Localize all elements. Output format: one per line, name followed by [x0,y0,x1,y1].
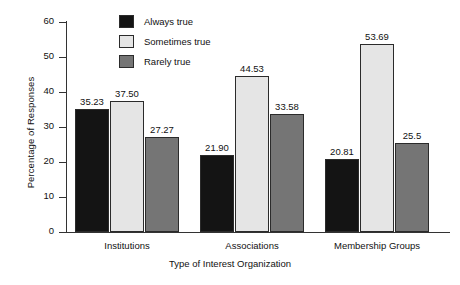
bar-value-label: 53.69 [354,31,400,42]
legend-swatch-icon [119,55,134,68]
y-axis-tick-mark [59,22,66,23]
x-axis-line [66,232,450,233]
legend-label: Always true [144,16,193,27]
y-axis-tick-mark [59,57,66,58]
y-axis-tick-label: 20 [43,155,54,166]
y-axis-tick-mark [59,127,66,128]
y-axis-tick-label: 30 [43,120,54,131]
bar-value-label: 37.50 [104,88,150,99]
y-axis-tick-label: 60 [43,15,54,26]
bar-value-label: 27.27 [139,124,185,135]
legend-label: Sometimes true [144,36,211,47]
bar [145,137,179,232]
bar-value-label: 25.5 [389,130,435,141]
legend-item: Rarely true [119,52,211,70]
bar-value-label: 33.58 [264,101,310,112]
bar [75,109,109,232]
bar-chart-figure: Percentage of Responses 0102030405060 35… [0,0,460,285]
legend-swatch-icon [119,15,134,28]
bar-value-label: 21.90 [194,142,240,153]
legend-label: Rarely true [144,56,190,67]
y-axis-tick-mark [59,232,66,233]
y-axis-tick-label: 50 [43,50,54,61]
y-axis-title: Percentage of Responses [25,33,36,233]
bar [395,143,429,232]
chart-legend: Always trueSometimes trueRarely true [119,12,211,72]
y-axis-tick-label: 40 [43,85,54,96]
bar [110,101,144,232]
bar [200,155,234,232]
bar [325,159,359,232]
bar [270,114,304,232]
bar [235,76,269,232]
legend-item: Always true [119,12,211,30]
y-axis-tick-label: 0 [49,225,54,236]
y-axis-tick-label: 10 [43,190,54,201]
y-axis-tick-mark [59,162,66,163]
legend-swatch-icon [119,35,134,48]
bar-value-label: 44.53 [229,63,275,74]
y-axis-line [66,21,67,233]
x-axis-title: Type of Interest Organization [0,258,460,269]
legend-item: Sometimes true [119,32,211,50]
x-axis-category-label: Membership Groups [295,240,459,251]
bar-value-label: 20.81 [319,146,365,157]
y-axis-tick-mark [59,197,66,198]
y-axis-tick-mark [59,92,66,93]
